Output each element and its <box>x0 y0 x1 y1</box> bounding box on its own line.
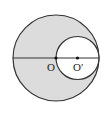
label-o: O <box>47 61 55 73</box>
label-o-prime: O′ <box>73 61 83 73</box>
point-o-prime <box>76 56 79 59</box>
geometry-diagram: O O′ <box>0 0 107 117</box>
point-o <box>54 56 57 59</box>
